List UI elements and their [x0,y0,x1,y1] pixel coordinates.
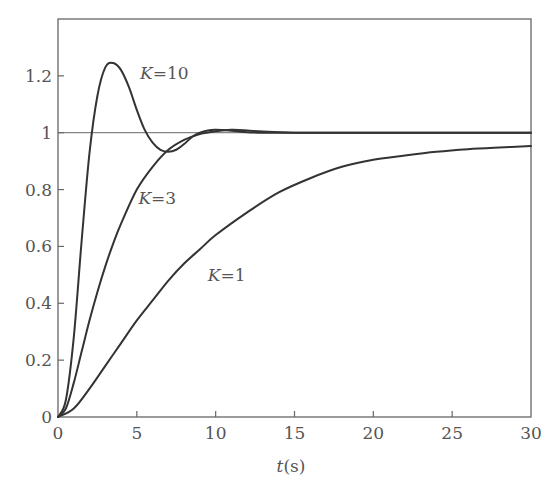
y-tick-label: 1 [41,123,52,143]
plot-border [58,19,531,417]
x-tick-label: 0 [53,423,64,443]
x-axis-unit: (s) [283,456,305,476]
y-tick-label: 0.6 [25,236,52,256]
y-tick-label: 0 [41,407,52,427]
y-tick-label: 1.2 [25,66,52,86]
x-tick-label: 30 [520,423,542,443]
x-tick-label: 5 [131,423,142,443]
x-tick-label: 15 [284,423,306,443]
curves [58,63,531,417]
y-tick-label: 0.8 [25,180,52,200]
curve-k10 [58,63,531,417]
curve-k1 [58,146,531,417]
curve-labels: K=10K=3K=1 [137,63,245,285]
x-tick-label: 10 [205,423,227,443]
curve-label-k3: K=3 [137,188,176,208]
plot-frame [58,19,531,417]
x-tick-label: 20 [363,423,385,443]
curve-label-k1: K=1 [207,265,246,285]
chart: 051015202530 00.20.40.60.811.2 K=10K=3K=… [0,0,557,496]
y-tick-label: 0.4 [25,293,52,313]
x-tick-label: 25 [441,423,463,443]
x-axis-ticks: 051015202530 [53,411,542,443]
x-axis-label: t(s) [277,456,306,476]
curve-k3 [58,130,531,417]
y-tick-label: 0.2 [25,350,52,370]
curve-label-k10: K=10 [139,63,189,83]
